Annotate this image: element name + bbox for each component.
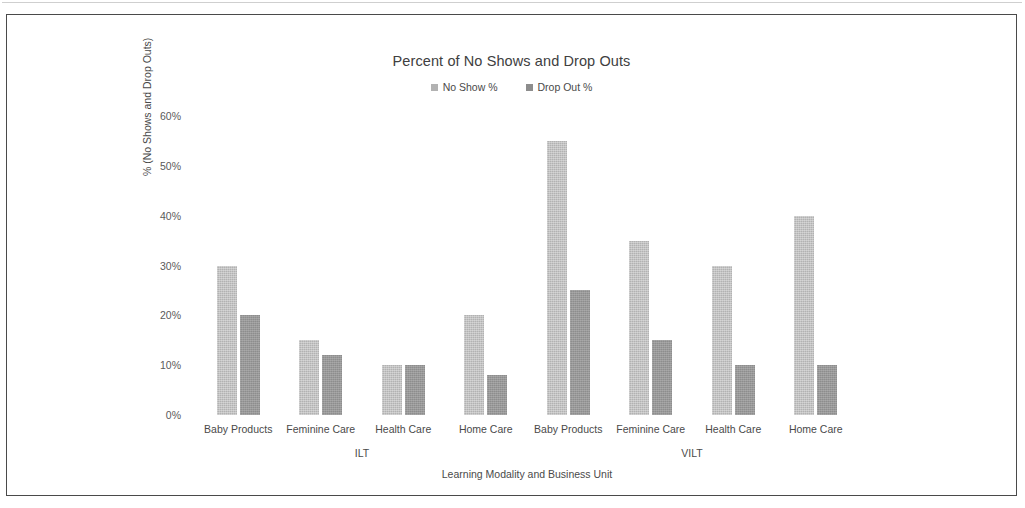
y-axis-title: % (No Shows and Drop Outs) [141,0,153,176]
legend-item-0[interactable]: No Show % [431,81,498,93]
bar-0[interactable] [794,216,814,415]
x-axis-category-label: Health Care [705,423,761,435]
bar-group: Baby Products [527,116,610,415]
bar-group: Feminine Care [280,116,363,415]
x-axis-title: Learning Modality and Business Unit [197,468,857,480]
chart-title: Percent of No Shows and Drop Outs [7,53,1016,69]
bar-0[interactable] [382,365,402,415]
legend-label: No Show % [443,81,498,93]
legend-swatch-icon [431,84,438,91]
bar-0[interactable] [629,241,649,415]
bar-1[interactable] [322,355,342,415]
legend-item-1[interactable]: Drop Out % [526,81,593,93]
bar-group: Feminine Care [610,116,693,415]
x-axis-category-label: Feminine Care [286,423,355,435]
y-axis-tick-label: 50% [160,160,181,172]
plot-area: % (No Shows and Drop Outs) 60%50%40%30%2… [197,116,857,415]
chart-frame: Percent of No Shows and Drop Outs No Sho… [6,14,1017,496]
y-axis-tick-label: 40% [160,210,181,222]
x-axis-supergroup-label: ILT [197,447,527,459]
y-axis-tick-label: 10% [160,359,181,371]
bar-group: Health Care [362,116,445,415]
bar-1[interactable] [570,290,590,415]
y-axis-tick-label: 60% [160,110,181,122]
bar-1[interactable] [735,365,755,415]
bar-0[interactable] [712,266,732,416]
x-axis-supergroups: ILTVILT [197,447,857,459]
bar-0[interactable] [547,141,567,415]
bar-groups: Baby ProductsFeminine CareHealth CareHom… [197,116,857,415]
y-axis-tick-label: 30% [160,260,181,272]
x-axis-supergroup-label: VILT [527,447,857,459]
bar-group: Home Care [775,116,858,415]
bar-group: Home Care [445,116,528,415]
bar-0[interactable] [464,315,484,415]
bar-1[interactable] [817,365,837,415]
bar-0[interactable] [217,266,237,416]
legend-swatch-icon [526,84,533,91]
bar-0[interactable] [299,340,319,415]
legend-label: Drop Out % [538,81,593,93]
bar-1[interactable] [405,365,425,415]
x-axis-category-label: Home Care [459,423,513,435]
bar-1[interactable] [240,315,260,415]
x-axis-category-label: Feminine Care [616,423,685,435]
bar-group: Baby Products [197,116,280,415]
x-axis-category-label: Health Care [375,423,431,435]
y-axis-tick-label: 0% [166,409,181,421]
x-axis-category-label: Home Care [789,423,843,435]
y-axis-tick-label: 20% [160,309,181,321]
x-axis-category-label: Baby Products [204,423,272,435]
bar-1[interactable] [487,375,507,415]
x-axis-category-label: Baby Products [534,423,602,435]
bar-group: Health Care [692,116,775,415]
chart-legend: No Show %Drop Out % [7,81,1016,93]
bar-1[interactable] [652,340,672,415]
scan-artifact-line [0,0,1025,6]
